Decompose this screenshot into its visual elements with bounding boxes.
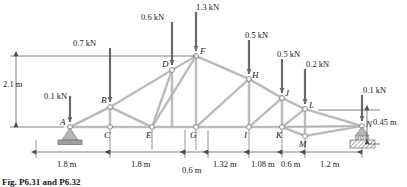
joint-C xyxy=(108,125,113,130)
node-label-J: J xyxy=(285,89,289,98)
joint-D xyxy=(170,68,175,73)
dim-label-vertical-right: 0.45 m xyxy=(373,118,397,127)
dim-label-3: 0.6 m xyxy=(182,166,201,175)
load-label-B: 0.7 kN xyxy=(73,39,96,48)
dim-label-2: 1.8 m xyxy=(131,160,150,169)
joint-K xyxy=(280,125,285,130)
dim-label-6: 0.6 m xyxy=(281,160,300,169)
joint-E xyxy=(150,125,155,130)
joint-H xyxy=(247,77,252,82)
load-label-L: 0.2 kN xyxy=(306,60,329,69)
dim-label-4: 1.32 m xyxy=(213,160,237,169)
joint-I xyxy=(247,125,252,130)
dim-label-vertical-left: 2.1 m xyxy=(3,80,22,89)
node-label-K: K xyxy=(276,131,282,140)
node-label-M: M xyxy=(299,140,307,149)
node-label-E: E xyxy=(146,131,152,140)
load-label-J: 0.5 kN xyxy=(277,50,300,59)
figure-caption: Fig. P6.31 and P6.32 xyxy=(2,178,81,187)
load-label-F: 1.3 kN xyxy=(196,3,219,12)
dim-label-5: 1.08 m xyxy=(251,160,275,169)
joint-G xyxy=(194,125,199,130)
joint-M xyxy=(303,134,308,139)
load-label-A: 0.1 kN xyxy=(44,92,67,101)
joint-B xyxy=(108,105,113,110)
support-roller xyxy=(350,127,375,148)
node-label-C: C xyxy=(104,131,110,140)
load-label-D: 0.6 kN xyxy=(141,13,164,22)
joint-J xyxy=(280,96,285,101)
node-label-D: D xyxy=(162,60,169,69)
node-label-F: F xyxy=(200,47,206,56)
node-label-L: L xyxy=(309,101,314,110)
support-pin xyxy=(58,128,82,145)
node-label-N: N xyxy=(366,120,372,129)
node-label-B: B xyxy=(101,96,107,105)
dim-label-7: 1.2 m xyxy=(320,160,339,169)
joint-L xyxy=(303,107,308,112)
node-label-H: H xyxy=(252,71,259,80)
dim-label-1: 1.8 m xyxy=(57,160,76,169)
node-label-I: I xyxy=(244,131,247,140)
load-label-H: 0.5 kN xyxy=(245,31,268,40)
load-label-N: 0.1 kN xyxy=(363,86,386,95)
node-label-G: G xyxy=(190,131,197,140)
node-label-A: A xyxy=(60,118,66,127)
